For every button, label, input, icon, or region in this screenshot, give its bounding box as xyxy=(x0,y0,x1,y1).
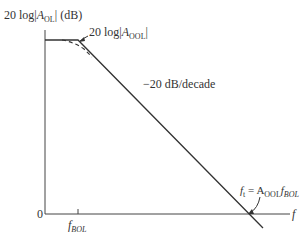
corner-arrowhead xyxy=(79,37,85,42)
corner-label: 20 log|AOOL| xyxy=(89,25,148,41)
actual-response-dashed xyxy=(62,40,92,57)
x-axis-label: f xyxy=(292,207,295,222)
bode-plot-graphic xyxy=(0,0,307,236)
slope-label: −20 dB/decade xyxy=(143,77,215,92)
asymptote-line xyxy=(45,40,263,228)
unity-gain-label: ft = AOOLfBOL xyxy=(240,184,299,199)
origin-label: 0 xyxy=(37,207,43,222)
corner-freq-label: fBOL xyxy=(68,218,86,234)
y-axis-label: 20 log|AOL| (dB) xyxy=(4,8,82,24)
unity-arrowhead xyxy=(248,209,254,214)
